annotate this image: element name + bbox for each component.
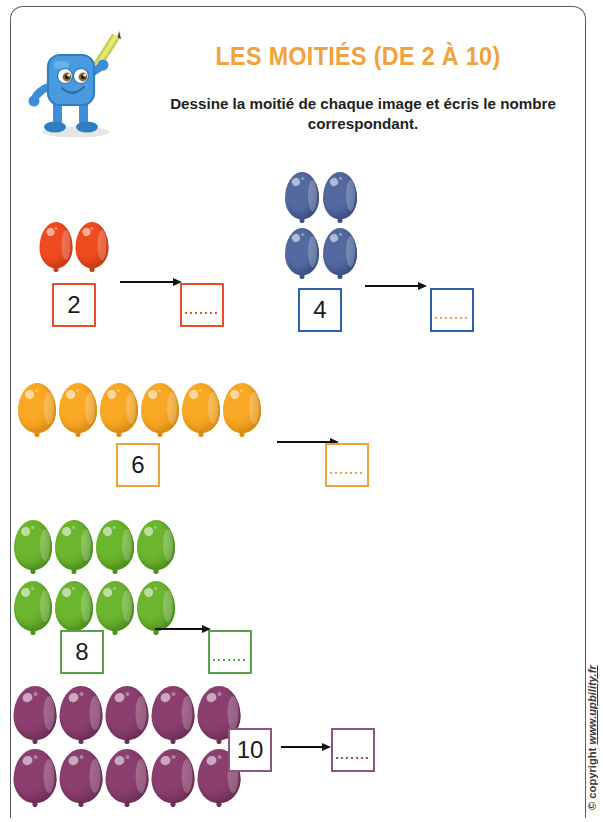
answer-input-box[interactable] bbox=[331, 728, 375, 772]
answer-dotted-line bbox=[213, 659, 247, 661]
answer-dotted-line bbox=[435, 317, 469, 319]
balloon-icon bbox=[94, 520, 135, 581]
copyright-mark: © copyright bbox=[586, 745, 598, 810]
balloon-icon bbox=[139, 383, 180, 442]
balloon-icon bbox=[38, 222, 74, 278]
answer-input-box[interactable] bbox=[208, 630, 252, 674]
balloon-group bbox=[38, 222, 110, 278]
balloon-icon bbox=[12, 520, 53, 581]
balloon-icon bbox=[104, 749, 150, 812]
balloon-icon bbox=[98, 383, 139, 442]
copyright-url[interactable]: www.upbility.fr bbox=[586, 665, 598, 744]
balloon-icon bbox=[12, 581, 53, 642]
answer-input-box[interactable] bbox=[180, 283, 224, 327]
balloon-icon bbox=[321, 172, 359, 228]
balloon-icon bbox=[16, 383, 57, 442]
balloon-icon bbox=[12, 686, 58, 749]
balloon-group bbox=[283, 172, 359, 284]
quantity-box: 4 bbox=[298, 288, 342, 332]
balloon-group bbox=[12, 520, 176, 642]
mascot-illustration bbox=[24, 28, 132, 140]
balloon-icon bbox=[150, 749, 196, 812]
balloon-icon bbox=[58, 749, 104, 812]
arrow-icon bbox=[120, 277, 182, 287]
arrow-icon bbox=[281, 742, 331, 752]
quantity-box: 6 bbox=[116, 443, 160, 487]
quantity-box: 8 bbox=[60, 630, 104, 674]
balloon-icon bbox=[321, 228, 359, 284]
answer-dotted-line bbox=[330, 472, 364, 474]
answer-dotted-line bbox=[336, 757, 370, 759]
balloon-group bbox=[12, 686, 242, 812]
balloon-icon bbox=[53, 520, 94, 581]
quantity-box: 2 bbox=[52, 283, 96, 327]
answer-dotted-line bbox=[185, 312, 219, 314]
balloon-group bbox=[16, 383, 262, 442]
balloon-icon bbox=[221, 383, 262, 442]
copyright-notice: © copyright www.upbility.fr bbox=[582, 628, 602, 810]
instruction-text: Dessine la moitié de chaque image et écr… bbox=[130, 94, 596, 134]
arrow-icon bbox=[155, 624, 211, 634]
balloon-icon bbox=[58, 686, 104, 749]
page-title: LES MOITIÉS (DE 2 À 10) bbox=[150, 42, 567, 71]
balloon-icon bbox=[180, 383, 221, 442]
answer-input-box[interactable] bbox=[325, 443, 369, 487]
balloon-icon bbox=[135, 520, 176, 581]
worksheet-header: LES MOITIÉS (DE 2 À 10) Dessine la moiti… bbox=[14, 10, 582, 145]
balloon-icon bbox=[74, 222, 110, 278]
arrow-icon bbox=[365, 281, 427, 291]
balloon-icon bbox=[104, 686, 150, 749]
balloon-icon bbox=[57, 383, 98, 442]
balloon-icon bbox=[12, 749, 58, 812]
balloon-icon bbox=[283, 172, 321, 228]
answer-input-box[interactable] bbox=[430, 288, 474, 332]
quantity-box: 10 bbox=[228, 728, 272, 772]
balloon-icon bbox=[150, 686, 196, 749]
balloon-icon bbox=[283, 228, 321, 284]
mascot-character bbox=[24, 28, 132, 140]
